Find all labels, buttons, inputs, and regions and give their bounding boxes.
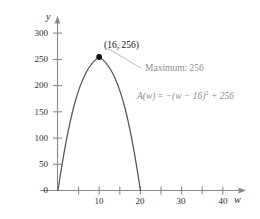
y-tick-label-300: 300: [22, 28, 48, 38]
equation-label: A(w) = −(w − 16)2 + 256: [137, 89, 234, 101]
x-axis: [40, 188, 246, 194]
equation-lhs: A(w): [137, 91, 155, 101]
maximum-leader-line: [107, 48, 141, 68]
quadratic-function-figure: 300 250 200 150 100 50 0 10 20 30 40 y w…: [0, 0, 260, 219]
x-tick-label-10: 10: [87, 196, 111, 206]
y-tick-label-0: 0: [22, 185, 48, 195]
parabola-curve: [58, 57, 140, 191]
equation-rhs-open: −(w − 16): [166, 91, 206, 101]
equation-tail-text: + 256: [211, 91, 234, 101]
y-tick-label-200: 200: [22, 80, 48, 90]
y-tick-label-250: 250: [22, 54, 48, 64]
x-tick-label-40: 40: [211, 196, 235, 206]
y-tick-label-100: 100: [22, 133, 48, 143]
y-axis-label: y: [46, 11, 50, 22]
x-axis-label: w: [234, 194, 241, 205]
vertex-coordinate-label: (16, 256): [104, 40, 139, 50]
x-tick-label-30: 30: [169, 196, 193, 206]
y-tick-label-150: 150: [22, 107, 48, 117]
x-tick-label-20: 20: [128, 196, 152, 206]
vertex-point: [96, 54, 102, 60]
maximum-value-label: Maximum: 256: [145, 63, 204, 73]
y-tick-label-50: 50: [22, 159, 48, 169]
equation-equals: =: [155, 91, 165, 101]
